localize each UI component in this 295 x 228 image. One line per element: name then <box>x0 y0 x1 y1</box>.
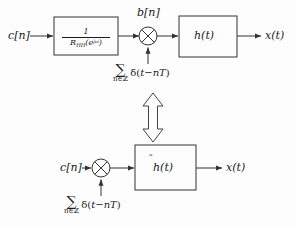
sigma-icon: ∑ <box>115 62 125 76</box>
sigma-icon-bottom: ∑ <box>66 194 76 208</box>
prefilter-transfer-function: 1 RHH(ejω) <box>62 27 110 48</box>
equivalence-double-arrow <box>143 93 163 142</box>
denominator-subscript: HH <box>76 42 85 48</box>
delta-arg-bottom: t−nT <box>91 199 117 210</box>
impulse-train-bottom: ∑ n∈ℤ δ(t−nT) <box>64 194 121 215</box>
impulse-train-top: ∑ n∈ℤ δ(t−nT) <box>113 62 170 83</box>
denominator-arg-close: ) <box>99 38 102 47</box>
delta-arg-top: t−nT <box>140 67 166 78</box>
delta-open-bottom: δ( <box>81 199 91 210</box>
filter-label-base: h <box>153 161 160 174</box>
summation-limit-bottom: n∈ℤ <box>64 208 79 215</box>
summation-operator-top: ∑ n∈ℤ <box>113 62 128 83</box>
delta-close-top: ) <box>166 67 170 78</box>
prefilter-numerator: 1 <box>62 27 110 36</box>
intermediate-signal-label: b[n] <box>137 7 160 18</box>
figure-canvas: c[n] 1 RHH(ejω) b[n] ∑ n∈ℤ δ(t−nT) h(t) … <box>0 0 295 228</box>
top-output-label: x(t) <box>265 30 284 41</box>
diagram-vector-layer <box>0 0 295 228</box>
filter-block-label-top: h(t) <box>194 30 214 41</box>
filter-block-label-bottom: h̃(t) <box>153 162 173 173</box>
delta-open-top: δ( <box>130 67 140 78</box>
delta-close-bottom: ) <box>117 199 121 210</box>
bottom-output-label: x(t) <box>226 162 245 173</box>
bottom-input-label: c[n] <box>60 162 82 173</box>
filter-label-arg: (t) <box>160 161 173 174</box>
prefilter-denominator: RHH(ejω) <box>62 38 110 48</box>
impulse-train-body-bottom: δ(t−nT) <box>81 199 120 210</box>
summation-limit-top: n∈ℤ <box>113 76 128 83</box>
top-input-label: c[n] <box>8 30 30 41</box>
summation-operator-bottom: ∑ n∈ℤ <box>64 194 79 215</box>
impulse-train-body-top: δ(t−nT) <box>130 67 169 78</box>
denominator-arg-open: (e <box>85 38 93 47</box>
